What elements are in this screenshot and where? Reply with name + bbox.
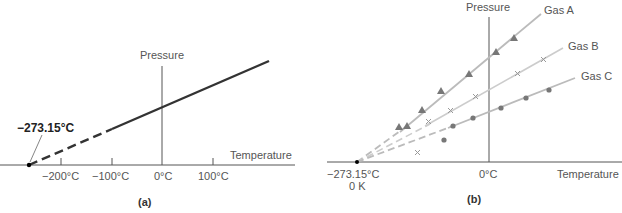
panel-label: (a)	[138, 196, 152, 208]
gas-a-label: Gas A	[544, 4, 575, 16]
pressure-label: Pressure	[466, 1, 510, 13]
gas-b-markers	[415, 57, 546, 155]
temperature-label: Temperature	[557, 168, 619, 180]
absolute-zero-dot	[355, 160, 359, 164]
zero-tick-label: 0°C	[479, 168, 498, 180]
gas-c-label: Gas C	[581, 70, 612, 82]
figure: −273.15°C Pressure Temperature −200°C −1…	[0, 0, 622, 213]
panel-a: −273.15°C Pressure Temperature −200°C −1…	[0, 49, 295, 208]
panel-label: (b)	[467, 193, 481, 205]
origin-label: −273.15°C	[327, 168, 379, 180]
gas-b-line	[425, 48, 563, 126]
gas-c-markers	[441, 87, 551, 142]
annotation-leader	[30, 135, 42, 162]
gas-c-extrapolated	[357, 126, 453, 162]
tick-label: −100°C	[92, 170, 129, 182]
tick-label: 100°C	[198, 170, 229, 182]
tick-label: −200°C	[42, 170, 79, 182]
panel-b: Pressure Gas A Gas B Gas C −273.15°C 0 K…	[327, 1, 622, 205]
gas-b-label: Gas B	[568, 40, 599, 52]
origin-kelvin-label: 0 K	[349, 180, 366, 192]
gas-b-extrapolated	[357, 124, 430, 162]
measured-line	[112, 61, 269, 129]
pressure-label: Pressure	[140, 49, 184, 61]
annotation-label: −273.15°C	[17, 121, 75, 135]
temperature-label: Temperature	[230, 149, 292, 161]
tick-label: 0°C	[154, 170, 173, 182]
absolute-zero-dot	[27, 163, 31, 167]
